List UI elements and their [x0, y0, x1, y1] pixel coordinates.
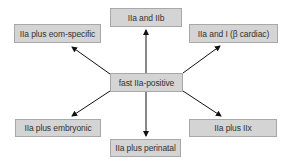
- arrow-to-bottom-right: [183, 91, 221, 116]
- node-top-left: IIa plus eom-specific: [14, 24, 101, 43]
- node-top: IIa and IIb: [110, 8, 182, 27]
- arrow-to-bottom-left: [72, 91, 110, 116]
- node-top-right: IIa and I (β cardiac): [189, 24, 278, 43]
- arrow-to-top-left: [72, 47, 110, 74]
- node-bottom: IIa plus perinatal: [110, 139, 181, 157]
- node-center: fast IIa-positive: [110, 73, 183, 92]
- node-bottom-left: IIa plus embryonic: [15, 119, 101, 137]
- node-bottom-right: IIa plus IIx: [189, 119, 277, 137]
- arrow-to-top-right: [183, 46, 220, 73]
